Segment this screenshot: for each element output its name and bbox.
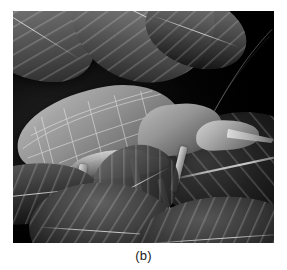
photo-grain xyxy=(13,11,274,243)
figure-caption: (b) xyxy=(0,248,287,263)
figure-panel: (b) xyxy=(0,0,287,270)
photograph xyxy=(13,11,274,243)
